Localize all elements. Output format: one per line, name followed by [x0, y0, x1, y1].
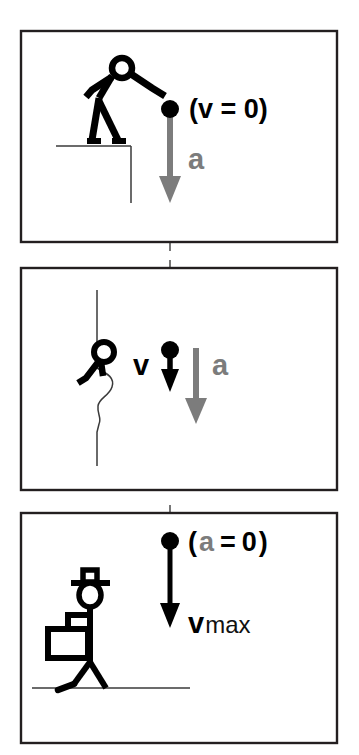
panel-top-frame [21, 31, 337, 242]
velocity-zero-annotation: (v = 0) [189, 94, 268, 124]
svg-text:(a=0): (a=0) [188, 527, 268, 557]
acceleration-zero-annotation: (a=0) [188, 527, 268, 557]
ball-panel-3 [161, 532, 179, 550]
ball-panel-2 [161, 341, 179, 359]
annotation-close-paren: ) [259, 527, 268, 557]
panel-top: (v = 0) a [21, 31, 337, 242]
panel-bottom: (a=0) vmax [21, 513, 337, 743]
annotation-value: 0 [242, 527, 257, 557]
annotation-symbol-a: a [199, 527, 215, 557]
velocity-vector-label: v [133, 349, 149, 381]
velocity-max-subscript: max [205, 611, 250, 638]
panel-middle-frame [21, 268, 337, 490]
svg-text:vmax: vmax [188, 607, 250, 639]
velocity-max-symbol: v [188, 607, 204, 639]
panel-middle: v a [21, 268, 337, 490]
annotation-open-paren: ( [188, 527, 197, 557]
acceleration-vector-label: a [188, 143, 205, 175]
acceleration-vector-label-2: a [212, 349, 229, 381]
annotation-equals: = [220, 527, 236, 557]
physics-free-fall-figure: (v = 0) a v a [0, 0, 359, 755]
velocity-max-label: vmax [188, 607, 250, 639]
ball-panel-1 [161, 100, 179, 118]
